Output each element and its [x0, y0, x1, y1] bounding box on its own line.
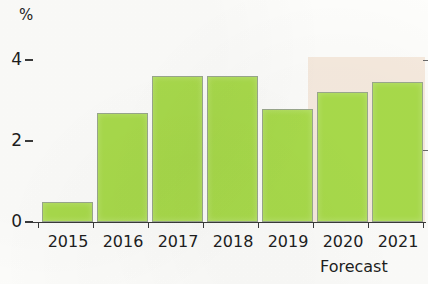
x-axis-label-2020: 2020	[315, 234, 371, 250]
bar-2017	[152, 76, 203, 222]
bar-2019	[262, 109, 313, 222]
x-axis-label-2016: 2016	[95, 234, 151, 250]
x-tick-2021	[368, 223, 369, 228]
y-tick-4	[25, 59, 33, 61]
scan-edge-mark-2	[423, 150, 428, 151]
y-axis-label-2: 2	[0, 132, 22, 149]
x-tick-2019	[258, 223, 259, 228]
bar-2020	[317, 92, 368, 222]
x-tick-2018	[203, 223, 204, 228]
x-axis-label-2019: 2019	[260, 234, 316, 250]
y-axis-unit-label: %	[19, 8, 33, 23]
x-axis-label-2021: 2021	[370, 234, 426, 250]
x-tick-2015	[38, 223, 39, 228]
bar-2021	[372, 82, 423, 222]
forecast-caption: Forecast	[320, 259, 388, 275]
x-axis-line	[30, 222, 426, 223]
x-tick-2020	[313, 223, 314, 228]
bar-chart-figure: % Forecast 02420152016201720182019202020…	[0, 0, 428, 284]
bar-2015	[42, 202, 93, 222]
x-tick-end	[423, 223, 424, 228]
x-axis-label-2015: 2015	[40, 234, 96, 250]
x-axis-label-2018: 2018	[205, 234, 261, 250]
y-tick-2	[25, 140, 33, 142]
y-axis-label-0: 0	[0, 213, 22, 230]
bar-2016	[97, 113, 148, 222]
y-tick-0	[25, 221, 33, 223]
bar-2018	[207, 76, 258, 222]
y-axis-label-4: 4	[0, 51, 22, 68]
x-axis-label-2017: 2017	[150, 234, 206, 250]
x-tick-2016	[93, 223, 94, 228]
x-tick-2017	[148, 223, 149, 228]
scan-edge-mark-1	[423, 60, 428, 61]
